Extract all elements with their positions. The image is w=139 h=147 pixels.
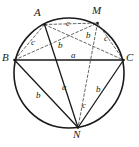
label-c-lower: c [82,101,86,110]
label-b-lower-left: b [36,91,41,100]
segment-am [45,23,98,25]
label-b-upper-left: b [58,41,63,50]
vertex-label-c: C [126,52,133,63]
vertex-dot-a [43,23,46,26]
label-c-right: c [104,34,108,43]
label-b-lower-right: b [96,85,101,94]
label-c-left: c [31,38,35,47]
segment-bm [15,23,98,60]
vertex-label-n: N [73,129,80,140]
label-a-chord: a [71,51,76,60]
segment-ac [45,25,124,61]
segment-bn [15,60,79,128]
vertex-dot-m [96,22,99,25]
vertex-label-a: A [34,7,41,18]
label-b-upper-right: b [86,31,91,40]
geometry-figure: AMBCN cccbbaabbc [0,0,139,147]
vertex-dot-b [13,59,16,62]
vertex-label-m: M [92,5,101,16]
vertex-dot-c [122,59,125,62]
segment-ab [15,25,45,61]
label-a-center: a [62,83,67,92]
label-c-top: c [66,19,70,28]
vertex-label-b: B [2,52,9,63]
